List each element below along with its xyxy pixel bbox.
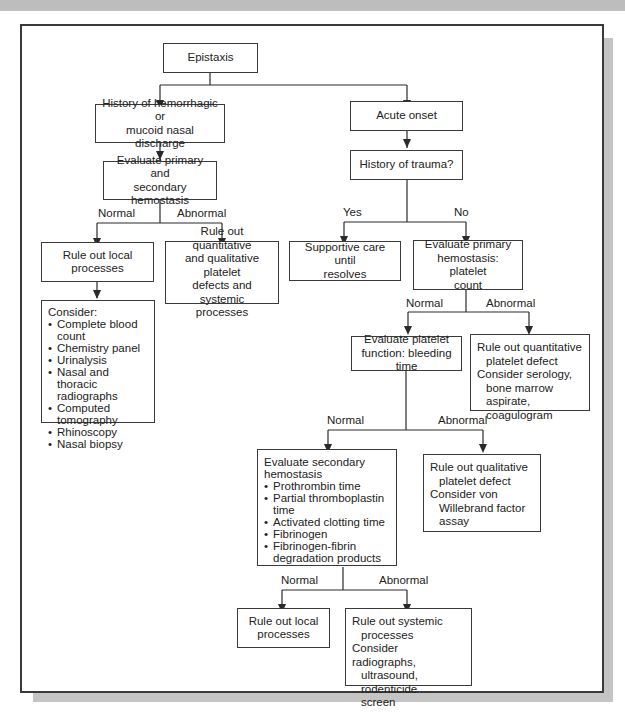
node-history-trauma-text: History of trauma? <box>360 158 454 172</box>
quant-defect-line: Rule out quantitative <box>477 341 583 355</box>
node-eval-primary-platelet-text: Evaluate primary hemostasis: platelet co… <box>418 238 518 292</box>
systemic-line: Rule out systemic <box>352 615 465 629</box>
node-eval-platelet-function-text: Evaluate platelet function: bleeding tim… <box>356 333 457 374</box>
node-rule-out-local-1-text: Rule out local processes <box>63 249 133 276</box>
qual-defect-line: Consider von <box>430 488 528 502</box>
consider-item: Rhinoscopy <box>48 426 148 438</box>
edge-label-yes: Yes <box>343 206 362 219</box>
consider-item: Nasal biopsy <box>48 438 148 450</box>
quant-defect-line: bone marrow aspirate, <box>477 382 583 409</box>
eval-secondary-item: Fibrinogen-fibrin degradation products <box>264 540 390 564</box>
consider-item: Computed tomography <box>48 402 148 426</box>
eval-secondary-item: Partial thromboplastin time <box>264 492 390 516</box>
node-history-trauma: History of trauma? <box>350 150 463 180</box>
consider-item: Urinalysis <box>48 354 148 366</box>
node-consider-list: Consider: Complete blood count Chemistry… <box>41 300 155 423</box>
node-rule-out-systemic: Rule out systemic processes Consider rad… <box>345 608 472 686</box>
node-supportive-care: Supportive care until resolves <box>289 241 401 281</box>
node-supportive-care-text: Supportive care until resolves <box>294 241 396 282</box>
edge-label-abnormal: Abnormal <box>177 207 226 220</box>
node-eval-primary-platelet: Evaluate primary hemostasis: platelet co… <box>413 240 523 290</box>
edge-label-normal: Normal <box>281 574 318 587</box>
node-acute-onset-text: Acute onset <box>376 109 437 123</box>
node-eval-primary-secondary: Evaluate primary and secondary hemostasi… <box>103 161 217 200</box>
quant-defect-line: platelet defect <box>477 355 583 369</box>
node-acute-onset: Acute onset <box>350 101 463 131</box>
node-epistaxis-text: Epistaxis <box>187 51 233 65</box>
node-rule-out-local-1: Rule out local processes <box>41 242 154 282</box>
eval-secondary-item: Prothrombin time <box>264 480 390 492</box>
qual-defect-line: platelet defect <box>430 475 528 489</box>
systemic-line: screen <box>352 696 465 710</box>
node-rule-out-quant-qual-text: Rule out quantitative and qualitative pl… <box>170 225 274 320</box>
consider-heading: Consider: <box>48 306 148 318</box>
node-rule-out-quant-defect: Rule out quantitative platelet defect Co… <box>470 334 590 411</box>
systemic-line: processes <box>352 629 465 643</box>
node-eval-secondary: Evaluate secondary hemostasis Prothrombi… <box>257 449 397 566</box>
consider-item: Complete blood count <box>48 318 148 342</box>
node-history-discharge: History of hemorrhagic or mucoid nasal d… <box>95 104 225 143</box>
eval-secondary-items: Prothrombin time Partial thromboplastin … <box>264 480 390 564</box>
edge-label-abnormal: Abnormal <box>486 297 535 310</box>
edge-label-normal: Normal <box>327 414 364 427</box>
node-rule-out-local-2: Rule out local processes <box>237 608 330 648</box>
eval-secondary-heading: Evaluate secondary hemostasis <box>264 456 390 480</box>
qual-defect-line: assay <box>430 515 528 529</box>
edge-label-abnormal: Abnormal <box>379 574 428 587</box>
edge-label-abnormal: Abnormal <box>438 414 487 427</box>
consider-items: Complete blood count Chemistry panel Uri… <box>48 318 148 450</box>
eval-secondary-item: Activated clotting time <box>264 516 390 528</box>
node-rule-out-local-2-text: Rule out local processes <box>249 615 319 642</box>
node-rule-out-qual-defect: Rule out qualitative platelet defect Con… <box>423 454 541 532</box>
edge-label-normal: Normal <box>98 207 135 220</box>
consider-item: Nasal and thoracic radiographs <box>48 366 148 402</box>
node-eval-platelet-function: Evaluate platelet function: bleeding tim… <box>351 336 462 371</box>
systemic-line: ultrasound, rodenticide <box>352 669 465 696</box>
quant-defect-line: Consider serology, <box>477 368 583 382</box>
eval-secondary-item: Fibrinogen <box>264 528 390 540</box>
qual-defect-line: Willebrand factor <box>430 502 528 516</box>
edge-label-normal: Normal <box>406 297 443 310</box>
systemic-line: Consider radiographs, <box>352 642 465 669</box>
node-epistaxis: Epistaxis <box>163 43 258 73</box>
quant-defect-line: coagulogram <box>477 409 583 423</box>
consider-item: Chemistry panel <box>48 342 148 354</box>
node-eval-primary-secondary-text: Evaluate primary and secondary hemostasi… <box>108 154 212 208</box>
node-history-discharge-text: History of hemorrhagic or mucoid nasal d… <box>100 97 220 151</box>
node-rule-out-quant-qual: Rule out quantitative and qualitative pl… <box>165 241 279 304</box>
qual-defect-line: Rule out qualitative <box>430 461 528 475</box>
edge-label-no: No <box>454 206 469 219</box>
